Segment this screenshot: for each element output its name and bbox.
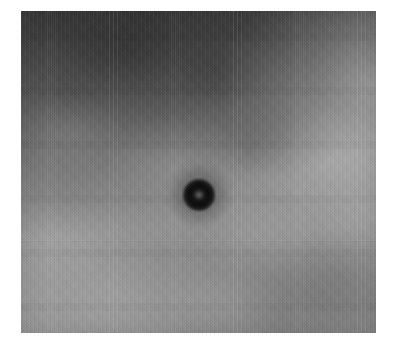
horizontal-seam-line — [21, 240, 376, 242]
page-root — [0, 0, 397, 350]
image-panel — [21, 11, 376, 333]
spot-core — [194, 191, 204, 199]
